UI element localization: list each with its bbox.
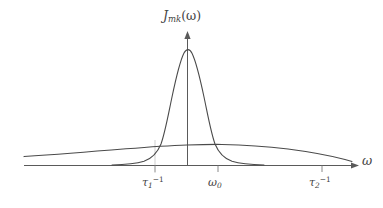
x-axis-arrowhead [351,162,359,168]
y-axis-label: Jmk(ω) [163,10,201,24]
x-axis-label: ω [362,155,372,168]
tick-label-omega-zero: ω0 [208,177,222,190]
tick-label-tau2-inverse: τ2−1 [309,176,331,190]
y-axis-arrowhead [184,31,190,39]
tick-label-omega-base: ω [208,176,217,189]
tick-label-tau1-inverse: τ1−1 [142,176,164,190]
tick-label-tau1-superscript: −1 [153,175,164,184]
tick-label-tau2-superscript: −1 [320,175,331,184]
tick-label-omega-subscript: 0 [217,181,222,190]
spectral-density-figure: Jmk(ω) ω τ1−1 ω0 τ2−1 [0,0,383,208]
y-axis-label-subscript: mk [168,14,181,24]
y-axis-label-argument: (ω) [181,8,201,23]
